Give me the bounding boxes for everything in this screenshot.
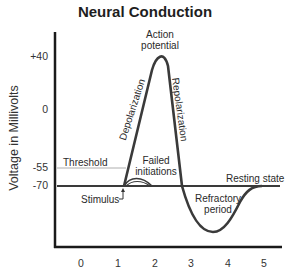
x-tick-5: 5 [257,257,271,269]
threshold-label: Threshold [63,157,107,168]
resting-state-label: Resting state [226,173,284,184]
action-potential-label-line1: Action [130,29,190,40]
refractory-period-label: Refractory period [190,193,246,215]
failed-initiations-line2: initiations [131,166,181,177]
y-tick-0: 0 [24,103,48,115]
x-tick-1: 1 [111,257,125,269]
y-tick-plus40: +40 [24,50,48,62]
x-tick-0: 0 [74,257,88,269]
refractory-period-line1: Refractory [190,193,246,204]
refractory-period-line2: period [190,204,246,215]
x-tick-3: 3 [184,257,198,269]
stimulus-label: Stimulus [81,194,119,205]
stimulus-arrow [119,191,123,199]
y-tick-minus70: -70 [24,179,48,191]
x-tick-2: 2 [148,257,162,269]
action-potential-label: Action potential [130,29,190,51]
action-potential-label-line2: potential [130,40,190,51]
failed-initiations-line1: Failed [131,155,181,166]
y-tick-minus55: -55 [24,161,48,173]
y-axis-label: Voltage in Millivolts [7,68,21,208]
failed-initiations-label: Failed initiations [131,155,181,177]
stimulus-arrowhead-icon [121,188,125,192]
x-tick-4: 4 [221,257,235,269]
